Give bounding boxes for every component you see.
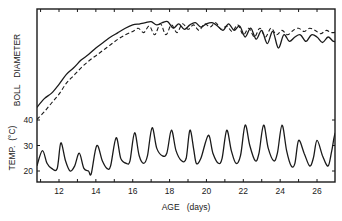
y-tick-label: 20 bbox=[24, 166, 34, 176]
x-axis-ticks: 1214161820222426 bbox=[41, 9, 322, 196]
boll-diameter-temperature-chart: 1214161820222426 203040 AGE (days) BOLL … bbox=[0, 0, 342, 221]
x-tick-label: 20 bbox=[202, 186, 212, 196]
y-tick-label: 30 bbox=[24, 141, 34, 151]
x-tick-label: 18 bbox=[165, 186, 175, 196]
x-axis-label: AGE (days) bbox=[162, 202, 211, 212]
data-series bbox=[37, 21, 339, 175]
y-axis-ticks: 203040 bbox=[24, 115, 335, 176]
x-tick-label: 14 bbox=[91, 186, 101, 196]
x-tick-label: 16 bbox=[128, 186, 138, 196]
y-axis-label-upper: BOLL DIAMETER bbox=[12, 34, 22, 106]
x-tick-label: 12 bbox=[54, 186, 64, 196]
x-tick-label: 26 bbox=[312, 186, 322, 196]
x-tick-label: 24 bbox=[275, 186, 285, 196]
y-axis-label-lower: TEMP. (°C) bbox=[7, 125, 17, 170]
y-tick-label: 40 bbox=[24, 115, 34, 125]
temperature-line bbox=[37, 125, 339, 175]
boll-diameter-solid-line bbox=[37, 21, 339, 107]
x-tick-label: 22 bbox=[239, 186, 249, 196]
